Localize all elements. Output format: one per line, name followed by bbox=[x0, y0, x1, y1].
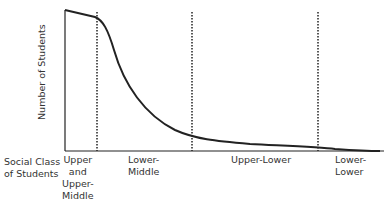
category-upper-and-upper-middle: Upper and Upper- Middle bbox=[62, 154, 94, 202]
cat1-line4: Middle bbox=[62, 190, 94, 202]
cat1-line1: Upper bbox=[62, 154, 94, 166]
distribution-curve bbox=[65, 10, 380, 151]
cat4-line1: Lower- bbox=[335, 154, 366, 166]
x-axis-label: Social Class of Students bbox=[4, 156, 60, 180]
y-axis-label: Number of Students bbox=[36, 24, 47, 120]
cat4-line2: Lower bbox=[335, 166, 366, 178]
cat1-line3: Upper- bbox=[62, 178, 94, 190]
cat1-line2: and bbox=[62, 166, 94, 178]
cat2-line2: Middle bbox=[128, 166, 159, 178]
x-axis-label-line1: Social Class bbox=[4, 156, 60, 168]
cat2-line1: Lower- bbox=[128, 154, 159, 166]
category-upper-lower: Upper-Lower bbox=[231, 154, 291, 166]
category-lower-lower: Lower- Lower bbox=[335, 154, 366, 178]
category-lower-middle: Lower- Middle bbox=[128, 154, 159, 178]
x-axis-label-line2: of Students bbox=[4, 168, 60, 180]
cat3-line1: Upper-Lower bbox=[231, 154, 291, 166]
